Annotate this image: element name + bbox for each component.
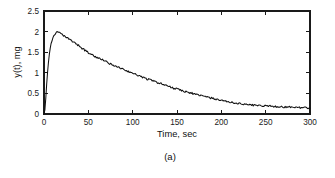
y-axis-title: y(t), mg <box>12 46 22 78</box>
y-tick-label: 1 <box>34 69 39 78</box>
chart-plot: 00.511.522.5 050100150200250300 Time, se… <box>0 0 335 178</box>
x-tick-label: 150 <box>170 118 184 127</box>
x-tick-label: 0 <box>42 118 47 127</box>
y-tick-label: 0.5 <box>28 89 40 98</box>
y-tick-label: 0 <box>34 110 39 119</box>
x-axis-title: Time, sec <box>157 129 197 139</box>
y-tick-label: 2 <box>34 28 39 37</box>
x-tick-label: 100 <box>126 118 140 127</box>
figure-caption: (a) <box>164 151 176 162</box>
x-tick-label: 50 <box>84 118 94 127</box>
figure-panel: 00.511.522.5 050100150200250300 Time, se… <box>0 0 335 178</box>
y-tick-label: 1.5 <box>28 48 40 57</box>
x-tick-label: 300 <box>303 118 317 127</box>
x-tick-label: 200 <box>214 118 228 127</box>
x-tick-label: 250 <box>259 118 273 127</box>
y-tick-label: 2.5 <box>28 7 40 16</box>
